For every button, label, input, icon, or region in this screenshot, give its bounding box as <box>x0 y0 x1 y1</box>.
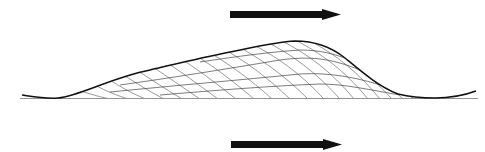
bedform-diagram <box>0 0 485 152</box>
arrow-shaft <box>230 11 326 18</box>
dune-profile <box>22 41 476 98</box>
arrow-head-icon <box>323 139 342 150</box>
arrow-head-icon <box>322 9 341 20</box>
arrow-shaft <box>231 141 327 148</box>
flow-arrow-bottom <box>231 139 342 150</box>
flow-arrow-top <box>230 9 341 20</box>
